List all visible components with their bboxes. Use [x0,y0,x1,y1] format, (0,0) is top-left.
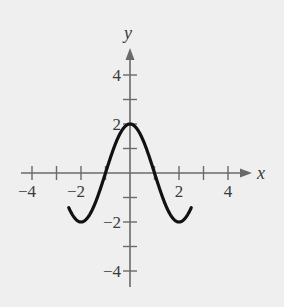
y-axis-label: y [122,23,132,43]
y-tick-label: −4 [103,262,122,281]
x-tick-label: 2 [175,182,184,201]
x-tick-label: 4 [224,182,233,201]
x-axis-arrow-icon [240,169,252,178]
y-tick-label: −2 [103,213,121,232]
x-tick-label: −4 [18,182,37,201]
x-tick-label: −2 [67,182,85,201]
x-axis-label: x [256,163,265,183]
y-tick-label: 4 [113,66,122,85]
axes [21,48,252,287]
function-graph: −4−224 42−2−4 x y [0,0,284,307]
y-axis-arrow-icon [126,48,135,60]
